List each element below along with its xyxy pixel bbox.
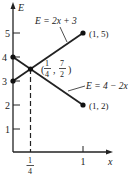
series-label-4-minus-2x: E = 4 − 2x [85,81,129,91]
line-chart: E x 1 2 3 4 5 1 1 4 (1, 5) (1, 2) ( 1 4 … [0,0,134,185]
intersection-label: ( 1 4 , 7 2 ) [41,59,71,79]
x-axis-arrow-icon [106,150,113,155]
point-label-1-5: (1, 5) [89,29,109,39]
leader-line-1 [60,27,67,42]
point-1-5 [80,30,85,35]
y-tick-label-4: 4 [2,52,7,63]
series-label-2x-plus-3: E = 2x + 3 [34,16,77,26]
point-intersection [28,66,33,71]
x-tick-label-quarter: 1 4 [27,156,35,176]
leader-line-2 [68,86,85,91]
svg-text:4: 4 [45,70,49,79]
svg-text:2: 2 [60,70,64,79]
x-tick-label-1: 1 [81,156,86,167]
point-1-2 [80,102,85,107]
x-axis-label: x [107,156,113,167]
svg-text:): ) [68,64,71,76]
point-label-1-2: (1, 2) [89,101,109,111]
y-tick-label-2: 2 [5,100,10,111]
svg-text:4: 4 [28,167,32,176]
svg-text:1: 1 [28,156,32,165]
svg-text:,: , [53,64,56,75]
svg-text:1: 1 [45,59,49,68]
y-tick-label-3: 3 [2,76,7,87]
y-axis-arrow-icon [11,2,16,9]
y-tick-label-5: 5 [5,28,10,39]
svg-text:7: 7 [60,59,64,68]
point-0-4 [10,54,15,59]
y-tick-label-1: 1 [5,124,10,135]
point-0-3 [10,78,15,83]
y-axis-label: E [17,2,24,13]
